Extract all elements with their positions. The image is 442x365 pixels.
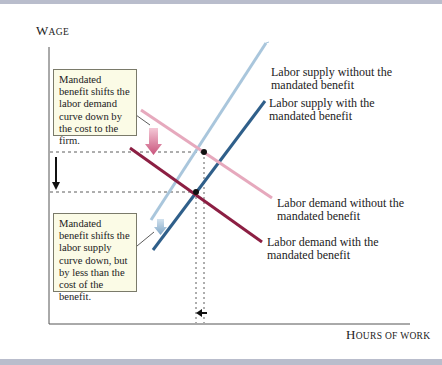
demand-shift-arrow-icon xyxy=(145,128,162,155)
supply-shift-note: Mandated benefit shifts the labor supply… xyxy=(53,213,137,292)
y-axis-title: WAGE xyxy=(36,23,69,39)
hours-drop-arrow-icon xyxy=(196,309,207,317)
chart-plot xyxy=(0,0,442,365)
x-axis-title: HOURS OF WORK xyxy=(346,327,430,343)
demand-without-label: Labor demand without themandated benefit xyxy=(277,197,404,223)
supply-without-leader xyxy=(266,42,269,43)
equilibrium-initial-dot xyxy=(201,149,207,155)
demand-note-leader xyxy=(136,115,150,125)
supply-without-curve xyxy=(151,43,266,220)
demand-shift-note: Mandated benefit shifts the labor demand… xyxy=(53,69,137,136)
demand-with-label: Labor demand with themandated benefit xyxy=(267,236,379,262)
wage-drop-arrow-icon xyxy=(52,157,60,190)
supply-without-label: Labor supply without themandated benefit xyxy=(271,66,392,92)
supply-note-leader xyxy=(137,232,154,246)
demand-without-curve xyxy=(141,110,272,198)
supply-with-label: Labor supply with themandated benefit xyxy=(269,97,375,123)
equilibrium-new-dot xyxy=(193,189,199,195)
